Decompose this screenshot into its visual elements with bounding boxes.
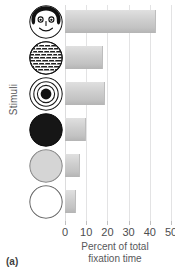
tick-0 xyxy=(65,221,66,225)
gridline-20 xyxy=(107,5,108,221)
stimulus-bullseye xyxy=(29,77,63,111)
bar-bullseye xyxy=(65,82,105,105)
stimulus-red-circle xyxy=(29,113,63,147)
x-axis-tick-labels: 01020304050 xyxy=(0,226,175,240)
tick-10 xyxy=(86,221,87,225)
tick-40 xyxy=(150,221,151,225)
bullseye-circle-icon xyxy=(29,77,63,111)
bar-white-circle xyxy=(65,190,76,213)
gridline-50 xyxy=(171,5,172,221)
tick-20 xyxy=(107,221,108,225)
newsprint-circle-icon xyxy=(29,41,63,75)
x-axis-label-line-2: fixation time xyxy=(55,253,175,265)
bar-red-circle xyxy=(65,118,86,141)
tick-50 xyxy=(171,221,172,225)
stimuli-column xyxy=(29,5,64,221)
figure-panel-a: Stimuli xyxy=(0,0,175,276)
gridline-40 xyxy=(150,5,151,221)
tick-30 xyxy=(129,221,130,225)
bar-face xyxy=(65,10,156,33)
y-axis-label: Stimuli xyxy=(8,70,19,130)
gridline-0 xyxy=(65,5,66,221)
stimulus-face xyxy=(29,5,63,39)
panel-label: (a) xyxy=(6,256,18,267)
white-circle-icon xyxy=(29,185,63,219)
stimulus-white-circle xyxy=(29,185,63,219)
gridline-30 xyxy=(129,5,130,221)
stimulus-newsprint xyxy=(29,41,63,75)
x-axis-label: Percent of total fixation time xyxy=(55,241,175,265)
plot-area xyxy=(65,5,171,221)
tick-label-50: 50 xyxy=(159,226,175,238)
x-axis-label-line-1: Percent of total xyxy=(55,241,175,253)
bar-newsprint xyxy=(65,46,103,69)
gridline-10 xyxy=(86,5,87,221)
bar-yellow-circle xyxy=(65,154,80,177)
stimulus-yellow-circle xyxy=(29,149,63,183)
solid-dark-circle-icon xyxy=(29,113,63,147)
light-gray-circle-icon xyxy=(29,149,63,183)
face-circle-icon xyxy=(29,5,63,39)
